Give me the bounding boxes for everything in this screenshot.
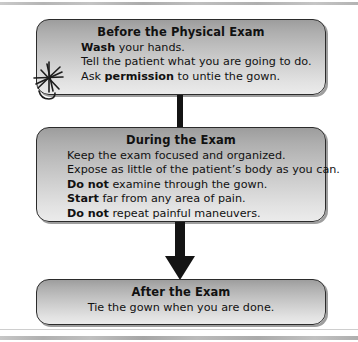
flow-box-line: Do not examine through the gown. bbox=[67, 178, 315, 192]
line-text: repeat painful maneuvers. bbox=[109, 207, 261, 220]
flow-box-body: Wash your hands. Tell the patient what y… bbox=[47, 41, 315, 84]
arrow-down-icon bbox=[165, 256, 195, 280]
flow-box-line: Tell the patient what you are going to d… bbox=[81, 55, 315, 69]
flow-box-title: During the Exam bbox=[47, 133, 315, 148]
flow-connector-bar bbox=[177, 95, 183, 128]
flow-box-before-the-physical-exam: Before the Physical Exam Wash your hands… bbox=[36, 19, 326, 95]
line-text: examine through the gown. bbox=[109, 178, 267, 191]
flow-box-body: Tie the gown when you are done. bbox=[47, 301, 315, 315]
flow-box-line: Expose as little of the patient’s body a… bbox=[67, 163, 315, 177]
line-text: Expose as little of the patient’s body a… bbox=[67, 163, 340, 176]
line-text: to untie the gown. bbox=[174, 70, 280, 83]
line-text: Keep the exam focused and organized. bbox=[67, 149, 286, 162]
line-text: Ask bbox=[81, 70, 105, 83]
flow-box-title: After the Exam bbox=[47, 285, 315, 300]
flow-box-line: Start far from any area of pain. bbox=[67, 192, 315, 206]
emphasis: Do not bbox=[67, 178, 109, 191]
flow-box-line: Tie the gown when you are done. bbox=[47, 301, 315, 315]
line-text: Tie the gown when you are done. bbox=[88, 301, 275, 314]
flow-box-title: Before the Physical Exam bbox=[47, 25, 315, 40]
flow-chart: Before the Physical Exam Wash your hands… bbox=[0, 0, 358, 342]
flow-box-body: Keep the exam focused and organized. Exp… bbox=[47, 149, 315, 221]
flow-box-during-the-exam: During the Exam Keep the exam focused an… bbox=[36, 127, 326, 222]
flow-connector-arrow-shaft bbox=[175, 222, 185, 258]
flow-box-line: Wash your hands. bbox=[81, 41, 315, 55]
line-text: your hands. bbox=[115, 41, 185, 54]
flow-box-line: Do not repeat painful maneuvers. bbox=[67, 207, 315, 221]
flow-box-after-the-exam: After the Exam Tie the gown when you are… bbox=[36, 279, 326, 325]
line-text: far from any area of pain. bbox=[99, 192, 246, 205]
flow-box-line: Keep the exam focused and organized. bbox=[67, 149, 315, 163]
emphasis: Wash bbox=[81, 41, 115, 54]
emphasis: Start bbox=[67, 192, 99, 205]
flow-box-line: Ask permission to untie the gown. bbox=[81, 70, 315, 84]
page-canvas: Before the Physical Exam Wash your hands… bbox=[0, 0, 358, 342]
line-text: Tell the patient what you are going to d… bbox=[81, 55, 312, 68]
emphasis: Do not bbox=[67, 207, 109, 220]
emphasis: permission bbox=[105, 70, 174, 83]
